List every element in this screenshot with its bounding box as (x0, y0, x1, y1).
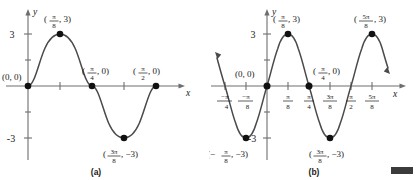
plabel-b0-suffix: , 3) (288, 14, 300, 24)
plabel-b1-den: 8 (364, 22, 368, 30)
x-tick-label-pi8-b: π 8 (283, 93, 293, 111)
panel-b-plot: y x 3 -3 −π 4 −π 8 π 8 π (209, 0, 417, 180)
caption-b: (b) (309, 167, 320, 177)
x-tick-label-5pi8-b: 5π 8 (365, 93, 379, 111)
plabel-b4-num: 3π (316, 148, 324, 156)
plabel-b2-suffix: , 0) (328, 66, 340, 76)
y-axis-arrow-a (25, 9, 30, 16)
xtl-b5-den: 2 (349, 103, 353, 111)
panel-b: y x 3 -3 −π 4 −π 8 π 8 π (209, 0, 417, 180)
point-min-3pi8-b (327, 135, 334, 142)
plabel-b3-prefix: (− (209, 149, 215, 159)
y-tick-label-3-b: 3 (251, 29, 256, 40)
point-zero-pi2-a (153, 83, 160, 90)
point-label-3pi8-neg3-a: ( 3π 8 , −3) (103, 148, 138, 165)
x-axis-arrow-a (179, 83, 186, 88)
curve-arrow-left-b (215, 52, 221, 59)
plabel-a0-den: 8 (52, 22, 56, 30)
plabel-a2-suffix: , 0) (148, 66, 160, 76)
xtl-b1-den: 8 (246, 103, 250, 111)
point-max-pi8-b (285, 31, 292, 38)
point-zero-pi4-a (89, 83, 96, 90)
plabel-a3-suffix: , −3) (121, 149, 138, 159)
xtl-b5-num: π (349, 93, 353, 101)
point-min-a (121, 135, 128, 142)
plabel-a0-prefix: ( (44, 14, 47, 24)
point-origin-a (25, 83, 32, 90)
plabel-b2-prefix: ( (313, 66, 316, 76)
y-tick-label-3-a: 3 (10, 29, 15, 40)
x-axis-label-b: x (392, 89, 398, 99)
plabel-a1-prefix: ( (82, 66, 85, 76)
y-axis-label-a: y (32, 7, 38, 17)
plabel-b1-num: 5π (362, 13, 370, 21)
point-label-5pi8-3-b: ( 5π 8 , 3) (354, 13, 386, 30)
xtl-b4-den: 8 (328, 103, 332, 111)
point-label-origin-a: (0, 0) (2, 72, 22, 82)
plabel-b0-num: π (281, 13, 285, 21)
plabel-a1-den: 4 (90, 74, 94, 82)
plabel-a0-suffix: , 3) (59, 14, 71, 24)
xtl-b1-num: −π (242, 93, 250, 101)
x-axis-label-a: x (185, 88, 191, 98)
plabel-b1-suffix: , 3) (374, 14, 386, 24)
plabel-a3-den: 8 (112, 157, 116, 165)
y-tick-label-neg3-a: -3 (7, 133, 15, 144)
plabel-a1-suffix: , 0) (97, 66, 109, 76)
plabel-a2-den: 2 (141, 74, 145, 82)
figure-container: y x 3 -3 (0, 0) ( π 8 , 3) ( π (0, 0, 417, 180)
point-label-neg-pi8-neg3-b: (− π 8 , −3) (209, 148, 248, 165)
plabel-a0-num: π (52, 13, 56, 21)
plabel-b3-suffix: , −3) (231, 149, 248, 159)
y-axis-arrow-b (264, 9, 269, 16)
plabel-b3-den: 8 (224, 157, 228, 165)
xtl-b3-num: π (307, 93, 311, 101)
plabel-b4-prefix: ( (309, 149, 312, 159)
point-zero-pi4-b (306, 83, 313, 90)
plabel-b2-den: 4 (321, 74, 325, 82)
point-max-a (57, 31, 64, 38)
point-max-5pi8-b (369, 31, 376, 38)
plabel-a3-num: 3π (110, 148, 118, 156)
xtl-b2-num: π (286, 93, 290, 101)
plabel-b1-prefix: ( (354, 14, 357, 24)
panel-a-plot: y x 3 -3 (0, 0) ( π 8 , 3) ( π (0, 0, 209, 180)
xtl-b0-num: −π (221, 93, 229, 101)
plabel-b2-num: π (321, 65, 325, 73)
plabel-b4-suffix: , −3) (327, 149, 344, 159)
panel-a: y x 3 -3 (0, 0) ( π 8 , 3) ( π (0, 0, 209, 180)
point-label-pi2-0-a: ( π 2 , 0) (133, 65, 160, 82)
plabel-b0-den: 8 (281, 22, 285, 30)
xtl-b3-den: 4 (307, 103, 311, 111)
x-tick-label-3pi8-b: 3π 8 (323, 93, 337, 111)
point-origin-b (264, 83, 271, 90)
xtl-b6-num: 5π (368, 93, 376, 101)
xtl-b2-den: 8 (286, 103, 290, 111)
xtl-b4-num: 3π (326, 93, 334, 101)
plabel-b4-den: 8 (318, 157, 322, 165)
corner-marker (391, 167, 413, 174)
plabel-a1-num: π (90, 65, 94, 73)
point-label-origin-b: (0, 0) (235, 69, 255, 79)
plabel-b3-num: π (224, 148, 228, 156)
x-tick-label-neg-pi8-b: −π 8 (238, 93, 253, 111)
point-label-pi4-0-b: ( π 4 , 0) (313, 65, 340, 82)
point-label-3pi8-neg3-b: ( 3π 8 , −3) (309, 148, 344, 165)
plabel-a3-prefix: ( (103, 149, 106, 159)
plabel-a2-num: π (141, 65, 145, 73)
curve-arrow-right-b (384, 67, 390, 74)
y-tick-label-neg3-b: -3 (248, 133, 256, 144)
xtl-b0-den: 4 (225, 103, 229, 111)
xtl-b6-den: 8 (370, 103, 374, 111)
plabel-a2-prefix: ( (133, 66, 136, 76)
svg-text:(: ( (44, 14, 47, 24)
point-label-pi8-3-b: ( π 8 , 3) (273, 13, 300, 30)
point-label-pi8-3-a: ( π 8 , 3) (44, 13, 71, 30)
caption-a: (a) (91, 167, 102, 177)
x-axis-arrow-b (400, 83, 407, 88)
plabel-b0-prefix: ( (273, 14, 276, 24)
